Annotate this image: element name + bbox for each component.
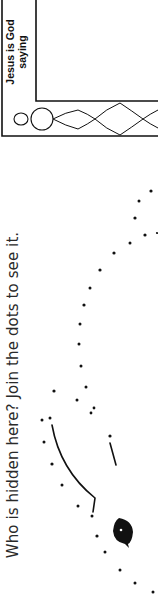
dot[interactable] [90,412,93,415]
dot[interactable] [134,582,137,585]
dot[interactable] [76,399,79,402]
frame-inner-border [36,0,158,101]
dot[interactable] [89,287,92,290]
dot[interactable] [98,268,101,271]
instruction-text: Who is hidden here? Join the dots to see… [3,185,23,604]
dot[interactable] [133,216,136,219]
dot[interactable] [108,434,111,437]
dot[interactable] [77,505,80,508]
dot[interactable] [95,534,98,537]
dot[interactable] [119,569,122,572]
eye-icon [113,518,133,548]
connect-the-dots [41,189,159,593]
dot[interactable] [79,323,82,326]
dot[interactable] [152,591,155,594]
dot[interactable] [112,251,115,254]
dot[interactable] [85,386,88,389]
frame-caption-line-1: Jesus is God [4,7,16,97]
ornament-diamond-chain [53,103,158,135]
dot[interactable] [149,189,152,192]
dot[interactable] [41,419,44,422]
dot[interactable] [104,551,107,554]
dot[interactable] [52,389,55,392]
ornament-large-circle-icon [31,108,53,130]
ornament-small-circle-icon [14,113,28,125]
dot[interactable] [49,417,52,420]
frame-caption-line-2: saying [16,7,28,97]
frame-caption: Jesus is God saying [4,7,34,97]
dot[interactable] [129,242,132,245]
figure-short-line [110,443,116,465]
dot[interactable] [78,343,81,346]
worksheet-page: Jesus is God saying Who is hidden here? … [0,0,158,604]
dot[interactable] [82,303,85,306]
figure-curve-line [52,425,95,512]
dot[interactable] [156,232,158,234]
dot[interactable] [43,441,46,444]
dot[interactable] [80,365,83,368]
dot[interactable] [61,484,64,487]
dot[interactable] [138,200,141,203]
dot[interactable] [93,407,96,410]
dot[interactable] [143,233,146,236]
dot[interactable] [91,515,94,518]
dot[interactable] [50,462,53,465]
figure-outline [52,425,116,512]
